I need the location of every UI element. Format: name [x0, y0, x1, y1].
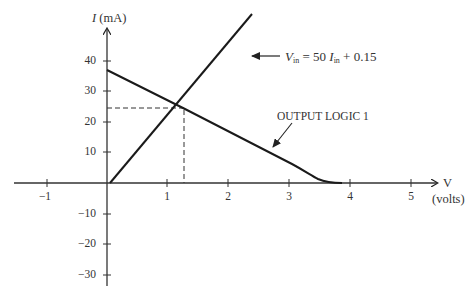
x-tick-label: 1	[157, 191, 177, 203]
x-tick-label: −1	[35, 191, 55, 203]
y-axis-symbol: I	[92, 11, 96, 25]
x-axis-symbol: V	[443, 177, 452, 190]
equation-annotation: Vin = 50 Iin + 0.15	[285, 50, 376, 65]
y-tick-label: 30	[66, 85, 96, 97]
x-tick-label: 5	[401, 191, 421, 203]
x-tick-label: 3	[279, 191, 299, 203]
y-tick-label: −10	[66, 208, 96, 220]
y-tick-label: −20	[66, 238, 96, 250]
y-tick-label: −30	[66, 269, 96, 281]
y-tick-label: 10	[66, 146, 96, 158]
x-tick-label: 4	[340, 191, 360, 203]
series-input-line	[110, 14, 252, 183]
x-tick-label: 2	[218, 191, 238, 203]
x-axis-unit: (volts)	[432, 193, 465, 206]
y-tick-label: 20	[66, 116, 96, 128]
output-logic-annotation: OUTPUT LOGIC 1	[277, 111, 369, 123]
series-output-logic-1-curve	[107, 70, 342, 183]
y-axis-unit: (mA)	[99, 11, 126, 25]
y-tick-label: 40	[66, 55, 96, 67]
output-logic-arrow	[273, 123, 292, 147]
y-axis-label: I (mA)	[92, 12, 126, 25]
